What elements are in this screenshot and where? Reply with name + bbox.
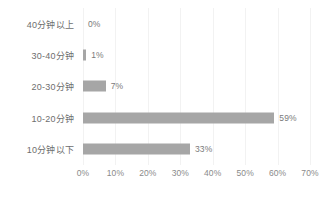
bar-value-label: 0% [88, 19, 101, 29]
gridline-70% [310, 8, 311, 165]
bar-row: 40分钟以上0% [83, 8, 310, 39]
x-tick-label: 10% [107, 168, 124, 178]
bar-row: 10-20分钟59% [83, 102, 310, 133]
bar [83, 81, 106, 92]
bar-value-label: 59% [279, 113, 296, 123]
bar-value-label: 7% [111, 81, 124, 91]
x-tick-label: 60% [269, 168, 286, 178]
bar-row: 10分钟以下33% [83, 134, 310, 165]
bar-value-label: 33% [195, 144, 212, 154]
x-tick-label: 40% [204, 168, 221, 178]
bar-row: 30-40分钟1% [83, 39, 310, 70]
x-axis: 0%10%20%30%40%50%60%70% [83, 168, 310, 182]
bar-value-label: 1% [91, 50, 104, 60]
x-tick-label: 30% [172, 168, 189, 178]
category-label: 10-20分钟 [32, 111, 74, 124]
category-label: 20-30分钟 [32, 80, 74, 93]
x-tick-label: 50% [236, 168, 253, 178]
bar-chart: 40分钟以上0%30-40分钟1%20-30分钟7%10-20分钟59%10分钟… [0, 0, 336, 199]
x-tick-label: 70% [301, 168, 318, 178]
bar [83, 50, 86, 61]
plot-area: 40分钟以上0%30-40分钟1%20-30分钟7%10-20分钟59%10分钟… [83, 8, 310, 165]
bar [83, 144, 190, 155]
bar [83, 112, 274, 123]
category-label: 40分钟以上 [27, 17, 74, 30]
bar-row: 20-30分钟7% [83, 71, 310, 102]
category-label: 10分钟以下 [27, 143, 74, 156]
x-tick-label: 0% [77, 168, 90, 178]
x-tick-label: 20% [139, 168, 156, 178]
category-label: 30-40分钟 [32, 49, 74, 62]
